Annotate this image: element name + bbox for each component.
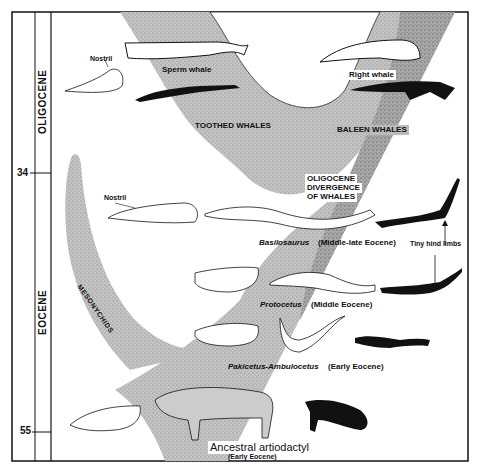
taxon-right-whale: Right whale — [347, 70, 396, 80]
epoch-label-oligocene: OLIGOCENE — [37, 69, 48, 134]
annotation-hind-limbs: Tiny hind limbs — [410, 240, 461, 247]
protocetus-skeleton — [380, 268, 462, 295]
basilosaurus-skeleton — [375, 178, 460, 228]
taxon-protocetus-age: (Middle Eocene) — [311, 301, 372, 309]
taxon-pakicetus-name: Pakicetus-Ambulocetus — [228, 363, 319, 371]
taxon-basilosaurus-name: Basilosaurus — [259, 239, 309, 247]
pakicetus-skull — [195, 323, 258, 346]
annotation-nostril-mid: Nostril — [104, 194, 126, 201]
tick-55: 55 — [20, 425, 31, 436]
epoch-label-eocene: EOCENE — [37, 290, 48, 335]
nostril-pointer — [115, 203, 135, 208]
mesonychid-skull — [70, 406, 140, 431]
taxon-ancestor-age: (Early Eocene) — [228, 453, 277, 460]
taxon-sperm-whale: Sperm whale — [162, 66, 211, 74]
mid-skull-illustration — [108, 203, 198, 223]
divergence-label-3: OF WHALES — [305, 192, 357, 202]
tick-34: 34 — [17, 167, 28, 178]
annotation-nostril-top: Nostril — [90, 55, 112, 62]
clade-label-toothed: TOOTHED WHALES — [195, 122, 271, 130]
clade-label-baleen: BALEEN WHALES — [335, 125, 409, 135]
toothed-skull-illustration — [65, 69, 123, 92]
taxon-basilosaurus-age: (Middle-late Eocene) — [318, 239, 396, 247]
whale-evolution-diagram — [0, 0, 480, 472]
taxon-pakicetus-age: (Early Eocene) — [328, 363, 384, 371]
taxon-protocetus-name: Protocetus — [260, 301, 302, 309]
pakicetus-skeleton — [355, 336, 430, 348]
artiodactyl-skeleton — [305, 400, 368, 432]
